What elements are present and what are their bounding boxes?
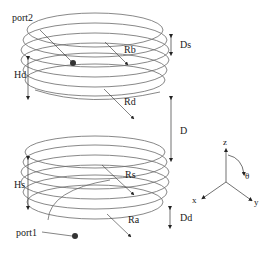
rb-label: Rb <box>124 45 136 55</box>
x-axis-label: x <box>192 196 197 205</box>
port1-label: port1 <box>16 228 37 238</box>
hs-label: Hs <box>14 180 25 190</box>
rs-label: Rs <box>125 170 136 180</box>
y-axis-label: y <box>254 198 259 207</box>
port1-marker <box>72 233 78 239</box>
z-axis-label: z <box>223 138 227 147</box>
lower-coil <box>21 136 169 220</box>
upper-coil <box>21 13 169 100</box>
dd-label: Dd <box>180 213 192 223</box>
rd-label: Rd <box>124 97 136 107</box>
ra-label: Ra <box>128 215 139 225</box>
port2-label: port2 <box>12 13 33 23</box>
d-label: D <box>180 126 187 136</box>
ds-label: Ds <box>180 40 191 50</box>
coordinate-axes <box>203 150 251 200</box>
hd-label: Hd <box>14 70 26 80</box>
theta-label: θ <box>245 172 249 181</box>
